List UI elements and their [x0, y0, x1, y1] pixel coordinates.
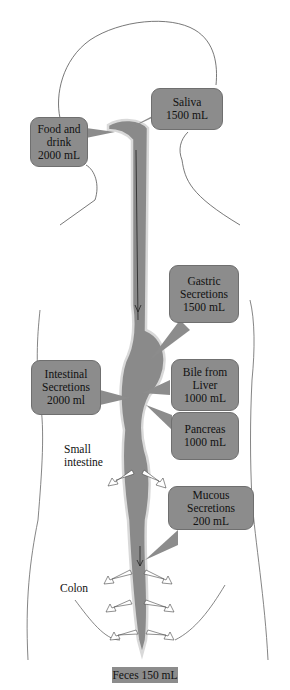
callout-line: 1500 mL — [152, 109, 222, 122]
callout-line: drink — [31, 136, 87, 149]
callout-line: 200 mL — [169, 515, 253, 528]
callout-line: 1500 mL — [170, 301, 238, 314]
callout-line: Secretions — [169, 502, 253, 515]
label-colon: Colon — [60, 582, 88, 595]
callout-line: Food and — [31, 123, 87, 136]
callout-intestinal-secretions: Intestinal Secretions 2000 ml — [31, 360, 101, 415]
body-outline-illustration — [0, 0, 290, 690]
callout-line: 2000 ml — [32, 394, 100, 407]
label-line: Small — [64, 443, 103, 456]
output-feces: Feces 150 mL — [112, 667, 178, 683]
callout-line: Intestinal — [32, 368, 100, 381]
callout-line: Secretions — [170, 288, 238, 301]
callout-saliva: Saliva 1500 mL — [151, 88, 223, 130]
label-small-intestine: Small intestine — [64, 443, 103, 469]
callout-line: Gastric — [170, 275, 238, 288]
callout-line: Bile from — [172, 366, 238, 379]
callout-pancreas: Pancreas 1000 mL — [171, 412, 239, 460]
callout-gastric-secretions: Gastric Secretions 1500 mL — [169, 265, 239, 323]
callout-line: 1000 mL — [172, 392, 238, 405]
callout-line: Liver — [172, 379, 238, 392]
callout-line: Saliva — [152, 96, 222, 109]
callout-mucous-secretions: Mucous Secretions 200 mL — [168, 486, 254, 530]
callout-line: 1000 mL — [172, 436, 238, 449]
callout-line: Pancreas — [172, 423, 238, 436]
callout-line: Mucous — [169, 489, 253, 502]
label-line: intestine — [64, 456, 103, 469]
callout-food-and-drink: Food and drink 2000 mL — [30, 117, 88, 167]
callout-bile-from-liver: Bile from Liver 1000 mL — [171, 359, 239, 411]
callout-line: Secretions — [32, 381, 100, 394]
callout-line: 2000 mL — [31, 149, 87, 162]
